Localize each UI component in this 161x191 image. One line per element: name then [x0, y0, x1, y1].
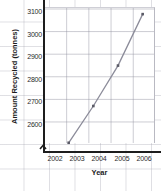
- y-axis-title: Amount Recycled (tonnes): [10, 17, 19, 137]
- y-tick-label: 2900: [16, 53, 42, 60]
- x-tick-label: 2002: [43, 155, 67, 163]
- data-point-markers: [67, 13, 144, 144]
- y-tick-label: 3000: [16, 31, 42, 38]
- y-tick-label: 2800: [16, 76, 42, 83]
- x-axis-line: [43, 151, 161, 153]
- data-point: [92, 105, 95, 108]
- data-point: [117, 64, 120, 67]
- data-point: [141, 13, 144, 16]
- y-tick-label: 3100: [16, 8, 42, 15]
- y-tick-label: 2600: [16, 121, 42, 128]
- chart-figure: 3100 3000 2900 2800 2700 2600 2002 2003 …: [0, 0, 161, 191]
- y-tick-label: 2700: [16, 98, 42, 105]
- x-axis-title: Year: [44, 168, 155, 177]
- x-tick-labels: 2002 2003 2004 2005 2006: [44, 155, 161, 167]
- line-path: [69, 14, 143, 143]
- x-tick-label: 2004: [87, 155, 111, 163]
- x-tick-label: 2005: [110, 155, 134, 163]
- x-tick-label: 2003: [65, 155, 89, 163]
- plot-area: [44, 7, 155, 143]
- x-tick-label: 2006: [132, 155, 156, 163]
- data-series-line: [44, 8, 155, 144]
- data-point: [67, 141, 70, 144]
- y-axis-line: [43, 0, 45, 152]
